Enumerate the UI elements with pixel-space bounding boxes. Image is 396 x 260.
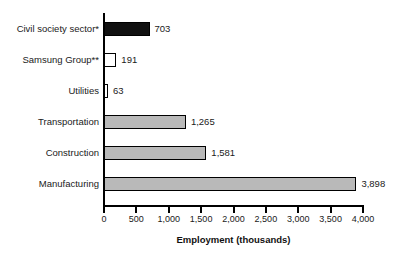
bar-row: Transportation1,265: [0, 115, 396, 129]
x-tick-label: 1,000: [157, 214, 180, 225]
x-tick-mark: [168, 207, 170, 213]
bar-value-label: 63: [113, 83, 124, 98]
x-tick-label: 1,500: [190, 214, 213, 225]
bar-row: Manufacturing3,898: [0, 177, 396, 191]
bar: [104, 53, 116, 67]
bar-value-label: 1,581: [211, 145, 235, 160]
x-tick-mark: [135, 207, 137, 213]
bar: [104, 22, 150, 36]
x-tick-label: 500: [129, 214, 144, 225]
x-tick-label: 2,500: [255, 214, 278, 225]
bar-value-label: 3,898: [361, 176, 385, 191]
bar-value-label: 703: [155, 21, 171, 36]
bar-row: Civil society sector*703: [0, 22, 396, 36]
x-tick-label: 3,500: [319, 214, 342, 225]
x-tick-mark: [330, 207, 332, 213]
category-label: Civil society sector*: [17, 21, 99, 36]
category-label: Samsung Group**: [22, 52, 99, 67]
x-tick-mark: [297, 207, 299, 213]
x-tick-mark: [103, 207, 105, 213]
bar-value-label: 1,265: [191, 114, 215, 129]
bar: [104, 146, 206, 160]
bar-value-label: 191: [121, 52, 137, 67]
category-label: Manufacturing: [39, 176, 99, 191]
bar: [104, 84, 108, 98]
x-tick-mark: [265, 207, 267, 213]
category-label: Transportation: [38, 114, 99, 129]
x-tick-mark: [362, 207, 364, 213]
bar-row: Construction1,581: [0, 146, 396, 160]
bar-chart: 05001,0001,5002,0002,5003,0003,5004,000 …: [0, 0, 396, 260]
x-tick-label: 2,000: [222, 214, 245, 225]
bar-row: Utilities63: [0, 84, 396, 98]
x-tick-label: 3,000: [287, 214, 310, 225]
bar: [104, 115, 186, 129]
x-tick-label: 0: [101, 214, 106, 225]
category-label: Construction: [46, 145, 99, 160]
x-axis-title: Employment (thousands): [104, 234, 363, 245]
bar: [104, 177, 356, 191]
x-tick-label: 4,000: [352, 214, 375, 225]
bar-row: Samsung Group**191: [0, 53, 396, 67]
category-label: Utilities: [68, 83, 99, 98]
x-tick-mark: [200, 207, 202, 213]
x-tick-mark: [233, 207, 235, 213]
